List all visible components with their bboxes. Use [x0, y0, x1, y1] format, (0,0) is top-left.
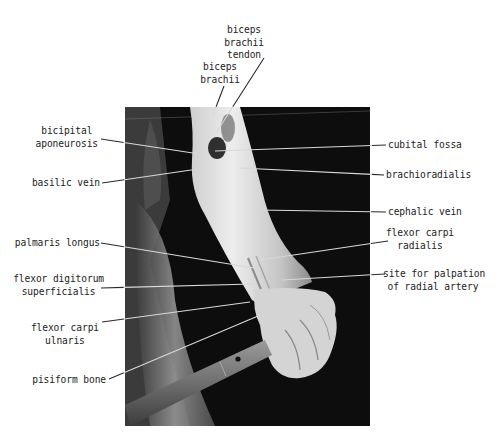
leader-line-flexor-digitorum-superficialis [101, 287, 124, 288]
label-pisiform-bone: pisiform bone [32, 374, 106, 387]
label-cubital-fossa: cubital fossa [388, 139, 462, 152]
label-biceps-brachii-tendon: biceps brachii tendon [222, 24, 266, 62]
label-site-for-palpation: site for palpation of radial artery [383, 268, 483, 293]
leader-line-bicipital-aponeurosis [101, 139, 124, 142]
label-flexor-carpi-radialis: flexor carpi radialis [380, 227, 460, 252]
leader-line-palmaris-longus [101, 243, 124, 247]
label-flexor-digitorum-superficialis: flexor digitorum superficialis [13, 273, 104, 298]
label-cephalic-vein: cephalic vein [388, 206, 462, 219]
label-bicipital-aponeurosis: bicipital aponeurosis [36, 125, 98, 150]
label-basilic-vein: basilic vein [32, 177, 100, 190]
label-biceps-brachii: biceps brachii [198, 61, 242, 86]
label-flexor-carpi-ulnaris: flexor carpi ulnaris [31, 322, 99, 347]
label-palmaris-longus: palmaris longus [15, 237, 100, 250]
leader-line-pisiform-bone [109, 373, 124, 379]
leader-line-brachioradialis [372, 174, 384, 175]
leader-line-biceps-brachii [216, 86, 224, 107]
leader-line-flexor-carpi-ulnaris [102, 319, 124, 322]
label-brachioradialis: brachioradialis [386, 169, 471, 182]
leader-line-cubital-fossa [372, 145, 386, 146]
leader-line-basilic-vein [102, 180, 124, 183]
